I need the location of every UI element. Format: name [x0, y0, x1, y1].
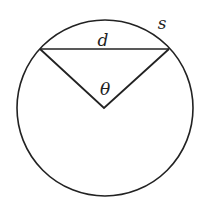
angle-label: θ: [100, 81, 110, 98]
chord-label: d: [98, 32, 109, 49]
arc-label: s: [158, 15, 167, 32]
diagram-canvas: d s θ: [0, 0, 204, 205]
